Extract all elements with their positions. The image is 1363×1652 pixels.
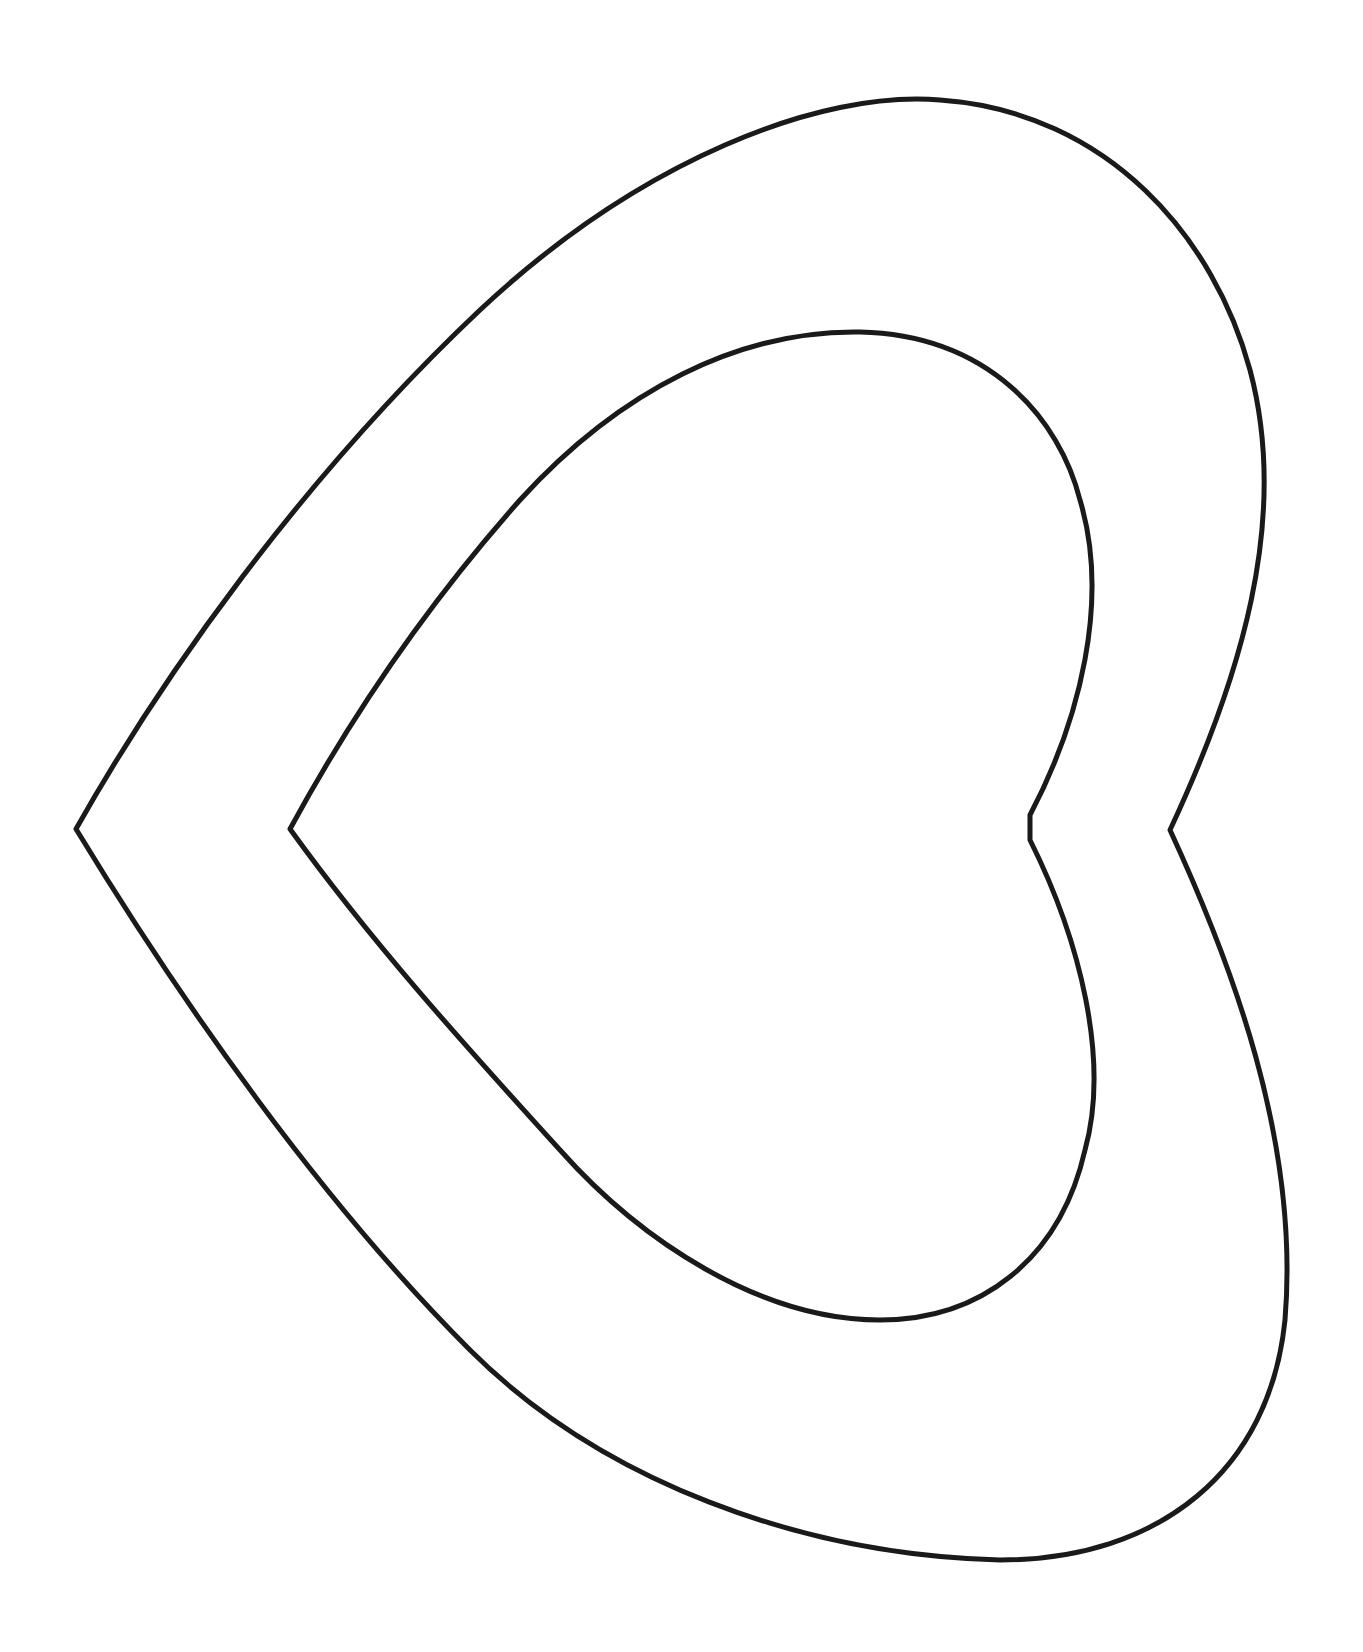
heart-drawing xyxy=(0,0,1363,1652)
outer-heart-outline xyxy=(76,99,1287,1560)
inner-heart-outline xyxy=(290,332,1094,1320)
